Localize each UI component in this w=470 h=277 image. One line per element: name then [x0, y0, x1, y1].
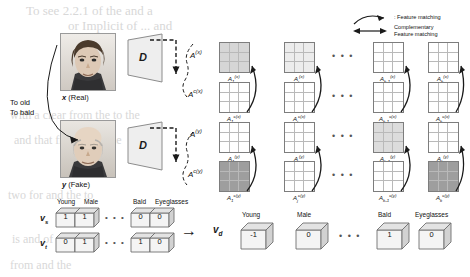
vs-value-young: 1	[56, 212, 75, 221]
vd-ellipsis: • • •	[339, 231, 361, 241]
legend-item-2-text-line2: Feature matching	[394, 31, 438, 38]
vs-ellipsis: • • •	[105, 213, 125, 222]
attr-header-bald-diff: Bald	[378, 211, 391, 218]
legend-item-1-text: : Feature matching	[394, 14, 441, 21]
attr-header-male-diff: Male	[297, 211, 311, 218]
vd-value-bald: 1	[377, 230, 402, 239]
attr-header-bald-left: Bald	[133, 198, 146, 205]
attr-header-young-diff: Young	[242, 211, 260, 218]
vt-value-young: 0	[56, 237, 75, 246]
vt-value-male: 1	[75, 237, 94, 246]
vt-ellipsis: • • •	[105, 238, 125, 247]
vt-value-bald: 1	[131, 237, 150, 246]
vd-value-young: -1	[241, 230, 266, 239]
legend-double-arrow-icon	[352, 26, 392, 36]
vd-value-male: 0	[296, 230, 321, 239]
vd-value-eyeglasses: 0	[419, 230, 444, 239]
ellipsis-row-Ax: • • •	[332, 51, 354, 61]
legend-item-2-text-line1: Complementary	[394, 24, 433, 31]
attr-header-eyeglasses-left: Eyeglasses	[155, 198, 188, 205]
vs-value-eyeglasses: 0	[150, 212, 169, 221]
vector-vd-label: vd	[213, 224, 223, 237]
attr-header-young-left: Young	[57, 198, 75, 205]
vector-vt-label: vt	[40, 238, 47, 250]
vs-value-bald: 0	[131, 212, 150, 221]
ellipsis-row-Ay: • • •	[332, 131, 354, 141]
legend-curved-arrow-icon	[352, 12, 392, 26]
vector-vs-label: vs	[40, 213, 48, 225]
attr-header-eyeglasses-diff: Eyeglasses	[415, 211, 448, 218]
ellipsis-row-Acx: • • •	[332, 91, 354, 101]
vt-value-eyeglasses: 0	[150, 237, 169, 246]
vs-value-male: 1	[75, 212, 94, 221]
attr-header-male-left: Male	[84, 198, 98, 205]
ellipsis-row-Acy: • • •	[332, 170, 354, 180]
vector-diff-arrow: →	[181, 223, 197, 239]
